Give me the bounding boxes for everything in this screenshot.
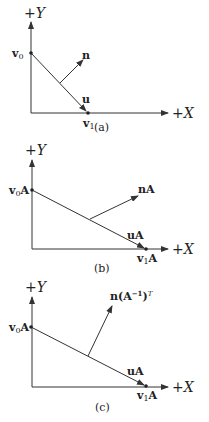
v1a-point: [144, 384, 148, 388]
na-vector: [90, 196, 138, 219]
y-axis-label: +Y: [24, 5, 47, 21]
normal-transform-diagram: +Y +X v0 v1 u n (a) +Y +X v0A v1A uA nA …: [0, 0, 209, 422]
caption-b: (b): [94, 262, 110, 275]
panel-b: +Y +X v0A v1A uA nA (b): [8, 142, 195, 275]
v1-label: v1: [82, 117, 95, 131]
v1a-label: v1A: [136, 389, 158, 403]
n-label: n: [82, 49, 90, 62]
n-inverse-transpose-label: n(A−1)T: [110, 289, 154, 303]
n-inverse-transpose-vector: [88, 306, 112, 356]
v0a-label: v0A: [8, 184, 30, 198]
v1a-point: [144, 247, 148, 251]
caption-a: (a): [94, 121, 109, 134]
x-axis-label: +X: [172, 379, 195, 395]
y-axis-label: +Y: [25, 142, 48, 158]
x-axis-label: +X: [172, 241, 195, 257]
u-vector: [31, 53, 86, 111]
na-label: nA: [138, 183, 155, 196]
x-axis-label: +X: [172, 105, 195, 121]
ua-label: uA: [127, 229, 144, 242]
v0a-label: v0A: [8, 321, 30, 335]
panel-c: +Y +X v0A v1A uA n(A−1)T (c): [8, 279, 195, 414]
caption-c: (c): [95, 401, 110, 414]
v1-point: [86, 111, 90, 115]
v0a-point: [29, 325, 33, 329]
u-label: u: [82, 93, 90, 106]
v0a-point: [30, 188, 34, 192]
v0-point: [29, 51, 33, 55]
panel-a: +Y +X v0 v1 u n (a): [11, 5, 195, 134]
v1a-label: v1A: [136, 252, 158, 266]
ua-label: uA: [127, 365, 144, 378]
y-axis-label: +Y: [25, 279, 48, 295]
v0-label: v0: [11, 47, 24, 61]
n-vector: [60, 60, 83, 83]
